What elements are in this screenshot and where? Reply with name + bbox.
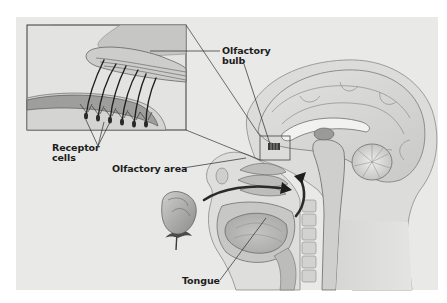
- label-receptor-cells: Receptor cells: [52, 143, 100, 163]
- label-olfactory-bulb-line2: bulb: [222, 56, 271, 66]
- label-olfactory-bulb: Olfactory bulb: [222, 46, 271, 66]
- nostril: [216, 168, 228, 184]
- rose-bloom: [162, 192, 197, 235]
- spinal-column: [302, 200, 316, 282]
- label-receptor-cells-line2: cells: [52, 153, 100, 163]
- thalamus: [314, 128, 334, 140]
- label-olfactory-area: Olfactory area: [112, 164, 187, 174]
- neck: [336, 220, 412, 290]
- rose-illustration: [162, 192, 197, 251]
- magnified-inset: [27, 25, 186, 130]
- label-tongue: Tongue: [182, 276, 220, 286]
- head-section: [204, 60, 437, 290]
